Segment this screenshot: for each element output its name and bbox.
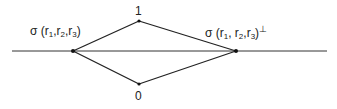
edge-left-bottom [73,51,139,84]
bottom-node-label: 0 [135,90,142,102]
node-left [71,49,75,53]
label-part: ,r [53,24,60,38]
edge-left-top [73,21,139,51]
label-part: ,r [243,26,250,40]
label-part: , r [228,26,239,40]
node-bottom [137,82,140,85]
left-node-label: σ (r1,r2,r3) [30,25,81,39]
node-right [234,49,238,53]
node-top [137,19,140,22]
edge-bottom-right [139,51,236,84]
label-part: (r [37,24,48,38]
label-part: (r [212,26,223,40]
lattice-diagram [0,0,337,109]
right-node-label: σ (r1, r2,r3)⊥ [205,25,267,41]
top-node-label: 1 [135,5,142,17]
label-part: ) [77,24,81,38]
perp-symbol: ⊥ [259,24,267,34]
